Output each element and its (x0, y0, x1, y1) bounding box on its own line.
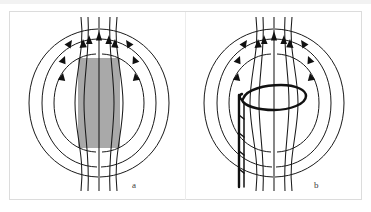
arrow-loop-icon (301, 40, 309, 49)
panel-a-diagram (9, 11, 186, 200)
arrow-loop-icon (59, 56, 66, 64)
arrow-loop-icon (133, 56, 140, 64)
arrow-up-icon (96, 31, 102, 41)
arrow-loop-icon (308, 56, 315, 64)
arrow-up-icon (271, 31, 277, 41)
arrow-loop-icon (240, 40, 248, 49)
arrow-loop-icon (234, 56, 241, 64)
arrow-loop-icon (65, 40, 73, 49)
top-band (0, 0, 371, 4)
lead-wires (239, 95, 244, 187)
panel-a-bar-magnet: a (9, 11, 186, 200)
panel-b-diagram (186, 11, 362, 200)
figure-root: a (0, 0, 371, 212)
panel-b-label: b (314, 180, 319, 190)
panel-a-label: a (132, 180, 136, 190)
arrow-loop-icon (126, 40, 134, 49)
panel-b-current-loop: b (186, 11, 362, 200)
